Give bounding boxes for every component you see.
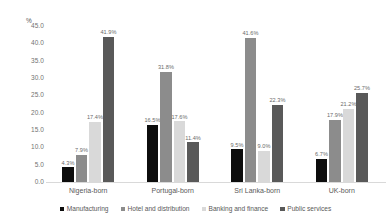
legend-swatch-icon xyxy=(280,207,285,212)
legend-label: Hotel and distribution xyxy=(128,205,190,213)
bar-value-label: 25.7% xyxy=(354,85,370,91)
bar-value-label: 17.9% xyxy=(327,112,343,118)
chart-legend: ManufacturingHotel and distributionBanki… xyxy=(0,205,391,213)
bar[interactable] xyxy=(258,151,270,182)
bar-value-label: 22.3% xyxy=(269,97,285,103)
bar-slot: 11.4% xyxy=(187,26,199,182)
x-axis-line xyxy=(46,182,386,183)
legend-swatch-icon xyxy=(121,207,126,212)
bar-value-label: 4.3% xyxy=(62,160,75,166)
legend-item[interactable]: Public services xyxy=(280,205,331,213)
bar-value-label: 7.9% xyxy=(75,147,88,153)
bar-slot: 25.7% xyxy=(356,26,368,182)
legend-item[interactable]: Banking and finance xyxy=(202,205,269,213)
legend-item[interactable]: Hotel and distribution xyxy=(121,205,190,213)
bar[interactable] xyxy=(76,155,88,182)
x-axis-category-label: Sri Lanka-born xyxy=(234,186,280,196)
bar-slot: 41.6% xyxy=(245,26,257,182)
bar-slot: 17.4% xyxy=(89,26,101,182)
bar-value-label: 17.6% xyxy=(171,114,187,120)
bar[interactable] xyxy=(329,120,341,182)
bar-slot: 9.0% xyxy=(258,26,270,182)
bar-slot: 41.9% xyxy=(103,26,115,182)
y-axis-tick: 25.0 xyxy=(20,92,44,99)
bar-slot: 6.7% xyxy=(316,26,328,182)
y-axis-tick: 10.0 xyxy=(20,144,44,151)
bar-slot: 17.9% xyxy=(329,26,341,182)
bar-slot: 4.3% xyxy=(62,26,74,182)
bar[interactable] xyxy=(343,109,355,182)
bar[interactable] xyxy=(174,121,186,182)
plot-area: 4.3%7.9%17.4%41.9%16.5%31.8%17.6%11.4%9.… xyxy=(46,26,384,182)
bar-slot: 7.9% xyxy=(76,26,88,182)
bar-group: 16.5%31.8%17.6%11.4% xyxy=(131,26,216,182)
bar[interactable] xyxy=(316,159,328,182)
legend-label: Public services xyxy=(287,205,331,213)
y-axis-tick: 20.0 xyxy=(20,109,44,116)
x-axis-category-label: UK-born xyxy=(329,186,355,196)
y-axis-tick: 45.0 xyxy=(20,23,44,30)
y-axis-tick-labels: 45.040.035.030.025.020.015.010.05.00.0 xyxy=(20,26,44,182)
bar[interactable] xyxy=(272,105,284,182)
bar-slot: 31.8% xyxy=(160,26,172,182)
bar-group: 4.3%7.9%17.4%41.9% xyxy=(46,26,131,182)
legend-swatch-icon xyxy=(202,207,207,212)
bar[interactable] xyxy=(160,72,172,182)
bar-value-label: 41.6% xyxy=(242,30,258,36)
bar[interactable] xyxy=(103,37,115,182)
y-axis-tick: 5.0 xyxy=(20,161,44,168)
bar-value-label: 6.7% xyxy=(315,151,328,157)
y-axis-tick: 0.0 xyxy=(20,179,44,186)
bar[interactable] xyxy=(245,38,257,182)
x-axis-category-label: Nigeria-born xyxy=(69,186,108,196)
legend-swatch-icon xyxy=(60,207,65,212)
bar[interactable] xyxy=(89,122,101,182)
bar-slot: 9.5% xyxy=(231,26,243,182)
bar-value-label: 41.9% xyxy=(100,29,116,35)
bar-group: 9.5%41.6%9.0%22.3% xyxy=(215,26,300,182)
bar[interactable] xyxy=(187,142,199,182)
bar[interactable] xyxy=(231,149,243,182)
y-axis-tick: 35.0 xyxy=(20,57,44,64)
x-axis-category-labels: Nigeria-bornPortugal-bornSri Lanka-bornU… xyxy=(46,186,384,198)
bar-value-label: 21.2% xyxy=(340,101,356,107)
y-axis-tick: 40.0 xyxy=(20,40,44,47)
bar-value-label: 16.5% xyxy=(144,117,160,123)
y-axis-tick: 15.0 xyxy=(20,127,44,134)
bar-value-label: 9.0% xyxy=(258,143,271,149)
bar-value-label: 17.4% xyxy=(87,114,103,120)
x-axis-category-label: Portugal-born xyxy=(152,186,194,196)
bar[interactable] xyxy=(62,167,74,182)
bar[interactable] xyxy=(147,125,159,182)
legend-item[interactable]: Manufacturing xyxy=(60,205,109,213)
bar-chart: % 45.040.035.030.025.020.015.010.05.00.0… xyxy=(0,0,391,224)
bar-value-label: 31.8% xyxy=(158,64,174,70)
bar-slot: 22.3% xyxy=(272,26,284,182)
bar-slot: 17.6% xyxy=(174,26,186,182)
bar-group: 6.7%17.9%21.2%25.7% xyxy=(300,26,385,182)
bar-value-label: 11.4% xyxy=(185,135,201,141)
y-axis-tick: 30.0 xyxy=(20,75,44,82)
bar-slot: 21.2% xyxy=(343,26,355,182)
bar-value-label: 9.5% xyxy=(231,142,244,148)
bar[interactable] xyxy=(356,93,368,182)
bar-slot: 16.5% xyxy=(147,26,159,182)
legend-label: Banking and finance xyxy=(209,205,269,213)
legend-label: Manufacturing xyxy=(67,205,109,213)
